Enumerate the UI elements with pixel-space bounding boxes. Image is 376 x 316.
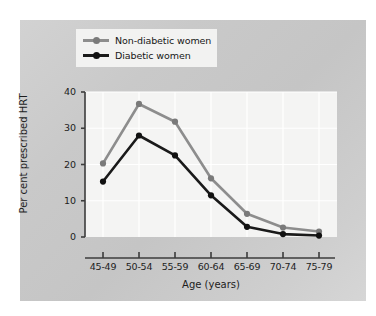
data-point xyxy=(316,232,322,238)
y-tick-label: 10 xyxy=(54,196,76,206)
data-point xyxy=(280,224,286,230)
x-tick-label: 45-49 xyxy=(83,262,123,272)
x-tick-label: 70-74 xyxy=(263,262,303,272)
x-axis-title: Age (years) xyxy=(85,279,337,290)
legend-item-diabetic: Diabetic women xyxy=(83,48,211,63)
data-point xyxy=(208,175,214,181)
data-point xyxy=(100,178,106,184)
chart-legend: Non-diabetic women Diabetic women xyxy=(76,29,217,67)
x-tick-label: 75-79 xyxy=(299,262,339,272)
data-point xyxy=(136,132,142,138)
legend-item-non-diabetic: Non-diabetic women xyxy=(83,33,211,48)
y-tick-label: 0 xyxy=(54,232,76,242)
x-tick-label: 60-64 xyxy=(191,262,231,272)
data-point xyxy=(100,160,106,166)
y-axis-title: Per cent prescribed HRT xyxy=(18,84,29,224)
legend-marker-diabetic-icon xyxy=(83,50,109,61)
legend-label-non-diabetic: Non-diabetic women xyxy=(115,35,211,46)
y-tick-label: 40 xyxy=(54,87,76,97)
x-tick-label: 55-59 xyxy=(155,262,195,272)
data-point xyxy=(172,152,178,158)
data-point xyxy=(280,231,286,237)
gridlines xyxy=(85,92,337,237)
figure: Non-diabetic women Diabetic women 010203… xyxy=(0,0,376,316)
legend-label-diabetic: Diabetic women xyxy=(115,50,191,61)
data-point xyxy=(136,101,142,107)
x-tick-label: 50-54 xyxy=(119,262,159,272)
data-point xyxy=(172,119,178,125)
data-point xyxy=(208,192,214,198)
data-point xyxy=(244,211,250,217)
x-tick-label: 65-69 xyxy=(227,262,267,272)
data-point xyxy=(244,224,250,230)
y-tick-label: 30 xyxy=(54,123,76,133)
y-tick-label: 20 xyxy=(54,160,76,170)
legend-marker-non-diabetic-icon xyxy=(83,35,109,46)
